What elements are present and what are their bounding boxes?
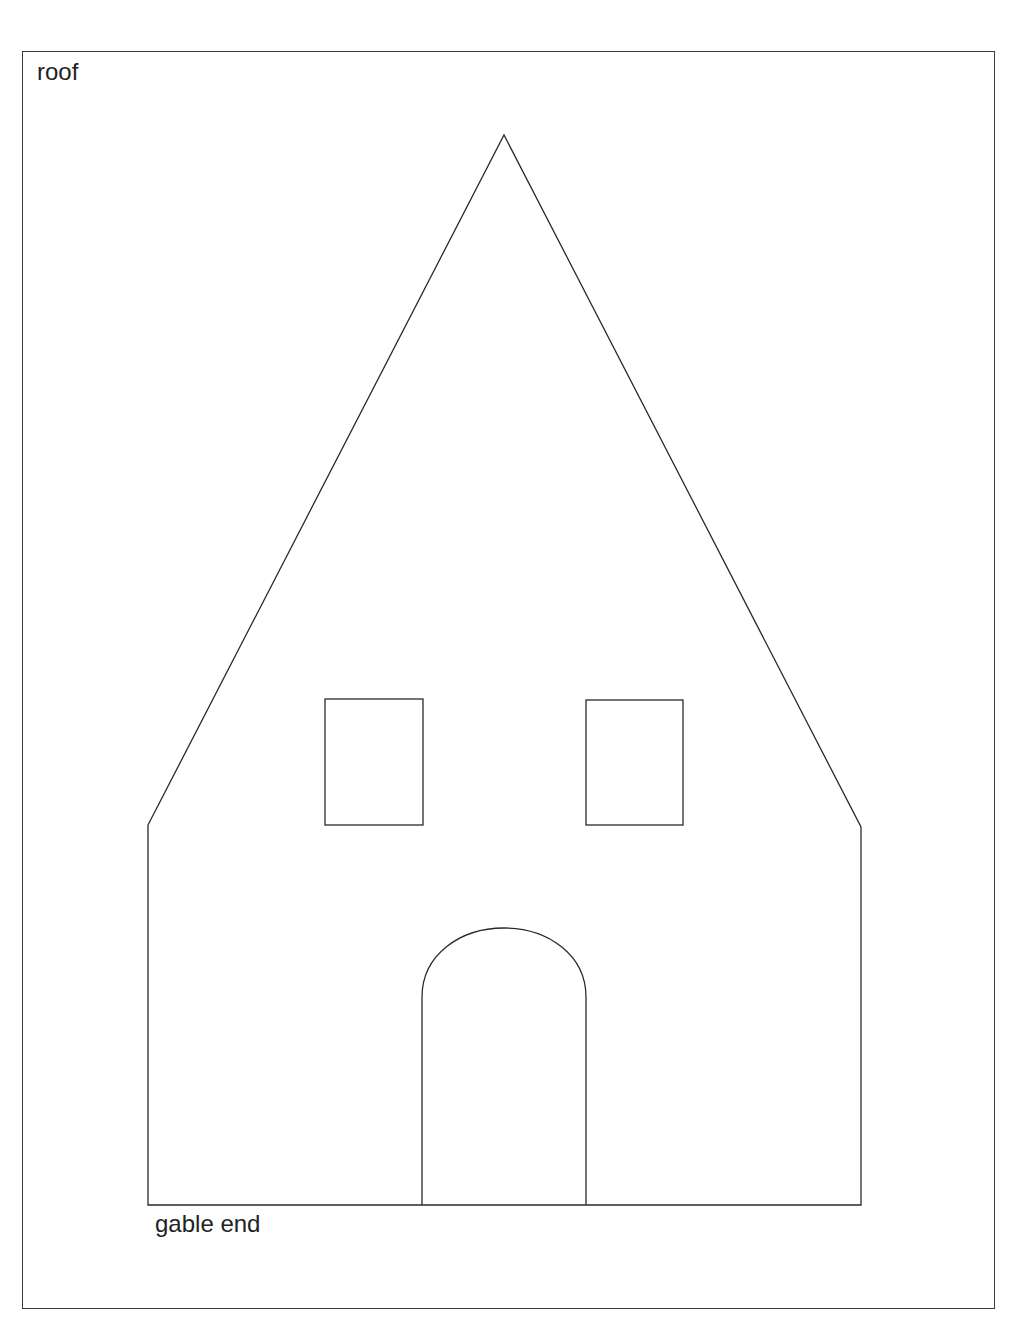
house-outline bbox=[148, 135, 861, 1205]
house-drawing bbox=[0, 0, 1013, 1335]
arched-door bbox=[422, 928, 586, 1205]
window-right bbox=[586, 700, 683, 825]
window-left bbox=[325, 699, 423, 825]
